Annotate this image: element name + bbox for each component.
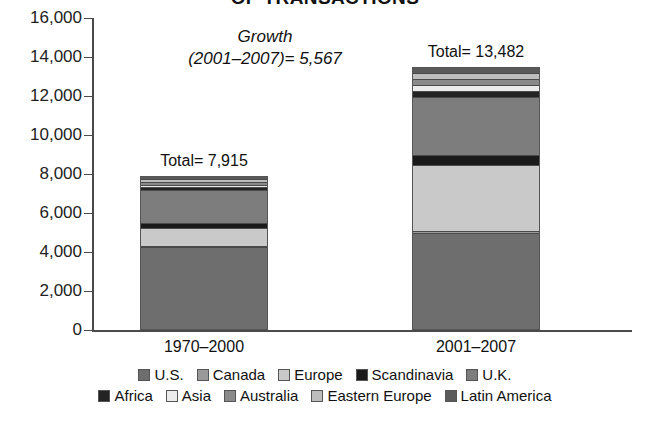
legend-swatch-icon [166,390,178,402]
legend-item[interactable]: Latin America [445,387,552,404]
legend-label: Asia [182,387,211,404]
legend-row-primary: U.S.CanadaEuropeScandinaviaU.K. [0,366,650,383]
legend-swatch-icon [138,369,150,381]
bar-segment [141,229,267,247]
y-axis-tick-mark [84,291,92,292]
y-axis-tick-mark [84,252,92,253]
bar-segment [413,234,539,330]
y-axis-tick-label: 14,000 [30,47,82,67]
x-axis-line [92,330,632,332]
bar-total-label: Total= 13,482 [412,43,540,61]
legend-label: U.K. [482,366,511,383]
y-axis-tick-label: 12,000 [30,86,82,106]
y-axis-line [92,18,94,330]
legend-label: U.S. [154,366,183,383]
legend-row-secondary: AfricaAsiaAustraliaEastern EuropeLatin A… [0,387,650,404]
bar-2 [412,67,540,330]
y-axis-tick-mark [84,330,92,331]
legend-item[interactable]: Australia [224,387,298,404]
legend-swatch-icon [356,369,368,381]
legend-item[interactable]: Asia [166,387,211,404]
legend-swatch-icon [278,369,290,381]
legend-label: Scandinavia [372,366,454,383]
y-axis-tick-mark [84,213,92,214]
legend-swatch-icon [466,369,478,381]
legend-item[interactable]: Scandinavia [356,366,454,383]
bar-segment [413,156,539,166]
legend-label: Latin America [461,387,552,404]
chart-legend: U.S.CanadaEuropeScandinaviaU.K. AfricaAs… [0,366,650,408]
y-axis-tick-label: 10,000 [30,125,82,145]
y-axis-tick-label: 4,000 [39,242,82,262]
stacked-bar-chart: OF TRANSACTIONS Growth (2001–2007)= 5,56… [0,0,650,431]
legend-swatch-icon [445,390,457,402]
bar-segment [413,98,539,156]
legend-item[interactable]: U.S. [138,366,183,383]
bar-total-label: Total= 7,915 [140,152,268,170]
y-axis-tick-mark [84,174,92,175]
legend-swatch-icon [224,390,236,402]
y-axis-tick-label: 6,000 [39,203,82,223]
y-axis-tick-label: 0 [73,320,82,340]
legend-label: Europe [294,366,342,383]
y-axis-tick-mark [84,135,92,136]
legend-label: Canada [213,366,266,383]
x-axis-label: 1970–2000 [140,338,268,356]
chart-title: OF TRANSACTIONS [0,0,650,9]
legend-swatch-icon [311,390,323,402]
y-axis-tick-mark [84,18,92,19]
legend-item[interactable]: Europe [278,366,342,383]
y-axis-tick-label: 2,000 [39,281,82,301]
legend-swatch-icon [197,369,209,381]
x-axis-label: 2001–2007 [412,338,540,356]
y-axis-tick-mark [84,96,92,97]
legend-label: Africa [114,387,152,404]
bar-segment [141,248,267,330]
legend-item[interactable]: Eastern Europe [311,387,431,404]
bar-segment [413,166,539,232]
bar-1 [140,176,268,330]
legend-label: Australia [240,387,298,404]
legend-item[interactable]: U.K. [466,366,511,383]
plot-area: 16,00014,00012,00010,0008,0006,0004,0002… [92,18,632,330]
legend-swatch-icon [98,390,110,402]
legend-item[interactable]: Canada [197,366,266,383]
y-axis-tick-label: 8,000 [39,164,82,184]
y-axis-tick-mark [84,57,92,58]
y-axis-tick-label: 16,000 [30,8,82,28]
bar-segment [141,191,267,224]
legend-item[interactable]: Africa [98,387,152,404]
legend-label: Eastern Europe [327,387,431,404]
